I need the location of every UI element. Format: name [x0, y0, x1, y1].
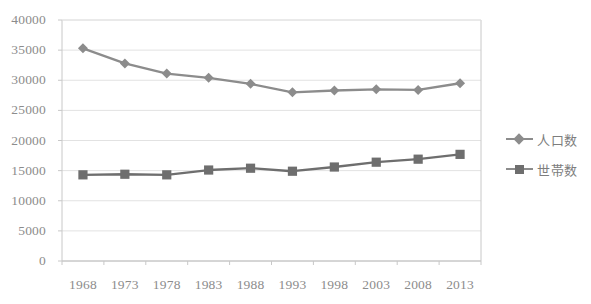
y-axis-label: 20000 [0, 134, 53, 148]
x-axis-label: 2008 [397, 278, 439, 292]
x-axis-label: 2013 [439, 278, 481, 292]
y-axis-label: 35000 [0, 43, 53, 57]
series-line-0 [83, 48, 460, 92]
x-axis-label: 1998 [313, 278, 355, 292]
chart-canvas [0, 0, 591, 304]
y-axis-label: 0 [0, 254, 53, 268]
legend-label-population: 人口数 [537, 130, 578, 149]
legend-item-population[interactable]: 人口数 [506, 124, 591, 154]
x-axis-label: 1968 [62, 278, 104, 292]
data-point-marker [455, 150, 464, 159]
legend-label-households: 世帯数 [537, 160, 578, 179]
x-axis-label: 2003 [355, 278, 397, 292]
series-line-1 [83, 154, 460, 174]
data-point-marker [329, 85, 339, 95]
y-axis-label: 40000 [0, 13, 53, 27]
y-axis-label: 25000 [0, 103, 53, 117]
chart-legend: 人口数 世帯数 [506, 124, 591, 184]
data-point-marker [204, 73, 214, 83]
data-point-marker [414, 155, 423, 164]
x-axis-label: 1988 [230, 278, 272, 292]
y-axis-label: 30000 [0, 73, 53, 87]
x-axis-label: 1973 [104, 278, 146, 292]
y-axis-tick-labels: 0500010000150002000025000300003500040000 [0, 0, 53, 304]
data-point-marker [372, 158, 381, 167]
data-point-marker [288, 167, 297, 176]
data-point-marker [78, 170, 87, 179]
y-axis-label: 10000 [0, 194, 53, 208]
x-axis-label: 1993 [272, 278, 314, 292]
data-point-marker [204, 165, 213, 174]
y-axis-label: 5000 [0, 224, 53, 238]
data-point-marker [120, 58, 130, 68]
data-point-marker [287, 87, 297, 97]
data-point-marker [120, 170, 129, 179]
data-point-marker [371, 84, 381, 94]
data-point-marker [413, 85, 423, 95]
data-point-marker [78, 43, 88, 53]
legend-item-households[interactable]: 世帯数 [506, 154, 591, 184]
x-axis-label: 1978 [146, 278, 188, 292]
x-axis-label: 1983 [188, 278, 230, 292]
data-point-marker [246, 164, 255, 173]
square-marker-icon [506, 163, 533, 175]
diamond-marker-icon [506, 133, 533, 145]
data-point-marker [330, 162, 339, 171]
line-chart: 0500010000150002000025000300003500040000… [0, 0, 591, 304]
y-axis-label: 15000 [0, 164, 53, 178]
data-point-marker [162, 69, 172, 79]
data-point-marker [162, 170, 171, 179]
